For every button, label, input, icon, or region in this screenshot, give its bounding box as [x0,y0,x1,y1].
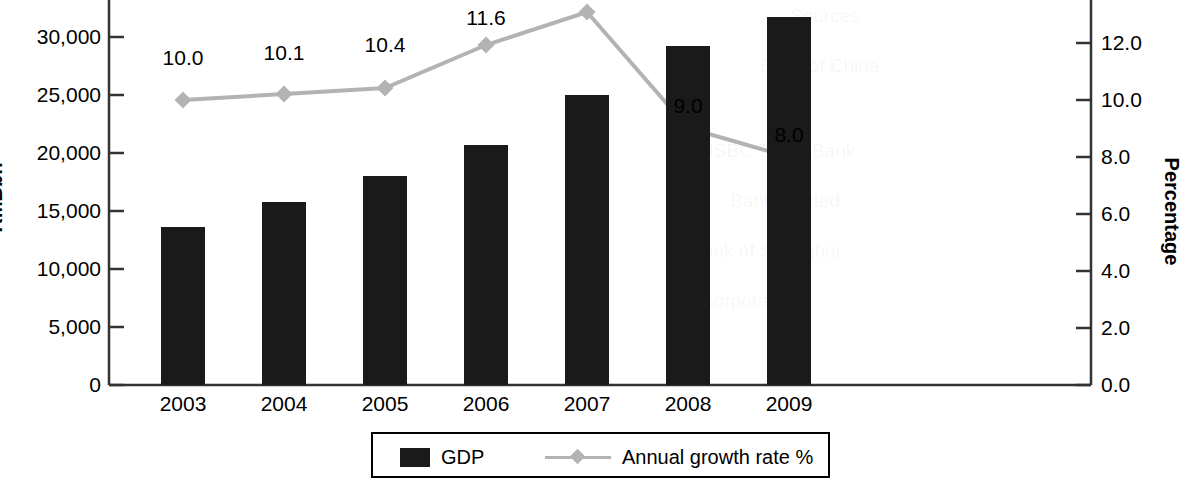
bar-2005 [363,176,407,385]
x-tick-2003: 2003 [133,392,233,416]
y-tick-left-30000: 30,000 [0,25,101,49]
legend-item-growth[interactable]: Annual growth rate % [545,434,813,480]
y-tick-left-5000: 5,000 [0,315,101,339]
x-tick-2009: 2009 [739,392,839,416]
bar-2009 [767,17,811,385]
y-tick-right-10: 10.0 [1101,88,1142,112]
chart-legend: GDP Annual growth rate % [371,432,830,478]
x-tick-2008: 2008 [638,392,738,416]
point-label-2009: 8.0 [739,123,839,147]
y-tick-right-6: 6.0 [1101,202,1130,226]
y-tick-left-20000: 20,000 [0,141,101,165]
legend-swatch-gdp-icon [400,448,430,467]
legend-item-gdp[interactable]: GDP [400,434,484,480]
y-tick-right-0: 0.0 [1101,373,1130,397]
bar-2004 [262,202,306,385]
x-tick-2006: 2006 [436,392,536,416]
y-tick-left-0: 0 [0,373,101,397]
x-tick-2004: 2004 [234,392,334,416]
bar-2006 [464,145,508,385]
legend-line-marker-icon [545,450,611,464]
y-tick-left-10000: 10,000 [0,257,101,281]
point-label-2008: 9.0 [638,94,738,118]
legend-label-gdp: GDP [441,446,484,469]
point-label-2005: 10.4 [335,33,435,57]
point-label-2006: 11.6 [436,6,536,30]
x-tick-2007: 2007 [537,392,637,416]
legend-label-growth: Annual growth rate % [622,446,813,469]
point-label-2004: 10.1 [234,41,334,65]
y-tick-right-8: 8.0 [1101,145,1130,169]
bar-2003 [161,227,205,385]
y-tick-right-4: 4.0 [1101,259,1130,283]
y-tick-left-25000: 25,000 [0,83,101,107]
y-tick-right-12: 12.0 [1101,31,1142,55]
point-label-2003: 10.0 [133,46,233,70]
y-tick-right-2: 2.0 [1101,316,1130,340]
y-tick-left-15000: 15,000 [0,199,101,223]
chart-canvas: Sources Bank of China HSBC Trade Bank Ba… [0,0,1200,487]
bar-2007 [565,95,609,385]
x-tick-2005: 2005 [335,392,435,416]
